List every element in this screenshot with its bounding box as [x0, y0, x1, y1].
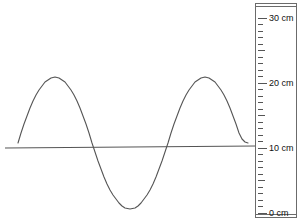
- ruler-tick-17: [258, 102, 263, 103]
- ruler-label-30: 30 cm: [269, 13, 294, 22]
- wave-svg: [0, 0, 258, 224]
- ruler-tick-11: [258, 141, 263, 142]
- ruler-tick-6: [258, 174, 263, 175]
- ruler-tick-13: [258, 128, 263, 129]
- wave-ruler-figure: 30 cm20 cm10 cm0 cm: [0, 0, 302, 224]
- ruler-tick-18: [258, 96, 263, 97]
- equilibrium-line: [5, 146, 256, 148]
- ruler-tick-26: [258, 44, 263, 45]
- ruler-tick-12: [258, 135, 263, 136]
- ruler-label-0: 0 cm: [269, 208, 289, 217]
- vertical-ruler: 30 cm20 cm10 cm0 cm: [255, 3, 297, 218]
- ruler-scale: 30 cm20 cm10 cm0 cm: [256, 4, 296, 217]
- ruler-label-20: 20 cm: [269, 78, 294, 87]
- ruler-tick-21: [258, 76, 263, 77]
- wave-plot-area: [0, 0, 258, 224]
- ruler-top-edge: [256, 6, 296, 7]
- ruler-tick-20: [258, 83, 267, 84]
- ruler-label-10: 10 cm: [269, 143, 294, 152]
- ruler-tick-19: [258, 89, 263, 90]
- ruler-tick-16: [258, 109, 263, 110]
- ruler-tick-1: [258, 206, 263, 207]
- ruler-tick-22: [258, 70, 263, 71]
- ruler-tick-14: [258, 122, 263, 123]
- ruler-tick-10: [258, 148, 267, 149]
- ruler-tick-2: [258, 200, 263, 201]
- ruler-tick-5: [258, 180, 265, 181]
- ruler-tick-23: [258, 63, 263, 64]
- ruler-tick-0: [258, 213, 267, 214]
- ruler-tick-9: [258, 154, 263, 155]
- ruler-tick-27: [258, 37, 263, 38]
- ruler-tick-7: [258, 167, 263, 168]
- ruler-tick-8: [258, 161, 263, 162]
- ruler-tick-25: [258, 50, 265, 51]
- ruler-tick-15: [258, 115, 265, 116]
- ruler-tick-28: [258, 31, 263, 32]
- ruler-tick-30: [258, 18, 267, 19]
- ruler-tick-24: [258, 57, 263, 58]
- ruler-tick-3: [258, 193, 263, 194]
- ruler-tick-29: [258, 24, 263, 25]
- sine-wave-curve: [18, 77, 248, 209]
- ruler-tick-4: [258, 187, 263, 188]
